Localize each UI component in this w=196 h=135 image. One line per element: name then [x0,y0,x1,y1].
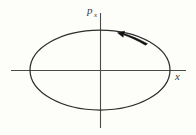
phase-space-plot: p x x [0,0,196,135]
p-axis-label: p [86,4,93,16]
phase-space-diagram: p x x [0,0,196,135]
p-axis-label-subscript: x [93,11,98,19]
x-axis-label: x [174,70,180,82]
